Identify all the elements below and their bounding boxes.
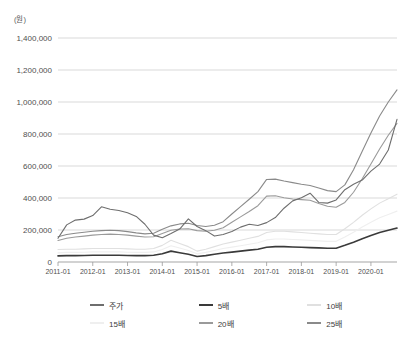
legend-item-label: 10배 — [326, 300, 342, 311]
legend-item-label: 20배 — [218, 318, 234, 329]
legend-swatch-icon — [307, 322, 321, 325]
x-axis-tick-label: 2013-01 — [115, 268, 141, 275]
x-axis-tick-label: 2019-01 — [323, 268, 349, 275]
legend-item[interactable]: 15배 — [46, 318, 155, 329]
legend-row: 주가 5배 10배 — [46, 296, 372, 314]
y-axis-tick-label: 800,000 — [0, 130, 52, 139]
legend-item-label: 5배 — [218, 300, 229, 311]
x-axis-tick-label: 2011-01 — [45, 268, 70, 275]
legend-swatch-icon — [307, 304, 321, 307]
y-axis-tick-label: 400,000 — [0, 194, 52, 203]
x-axis-tick-label: 2018-01 — [289, 268, 315, 275]
legend-item[interactable]: 25배 — [263, 318, 372, 329]
legend-swatch-icon — [199, 322, 213, 325]
y-axis-tick-label: 1,000,000 — [0, 98, 52, 107]
y-axis-tick-label: 0 — [0, 258, 52, 267]
legend-item[interactable]: 10배 — [263, 300, 372, 311]
y-axis-tick-label: 1,400,000 — [0, 34, 52, 43]
chart-legend: 주가 5배 10배 15배 20배 25배 — [0, 296, 405, 332]
y-axis-tick-label: 600,000 — [0, 162, 52, 171]
legend-row: 15배 20배 25배 — [46, 314, 372, 332]
legend-item[interactable]: 주가 — [46, 300, 155, 311]
chart-container: (원) 0200,000400,000600,000800,0001,000,0… — [0, 0, 405, 349]
legend-item-label: 주가 — [109, 300, 123, 311]
x-axis-tick-label: 2016-01 — [219, 268, 245, 275]
x-axis-tick-label: 2020-01 — [358, 268, 384, 275]
x-axis-tick-label: 2015-01 — [184, 268, 210, 275]
x-axis-tick-label: 2017-01 — [254, 268, 280, 275]
y-axis-tick-label: 200,000 — [0, 226, 52, 235]
x-axis-tick-label: 2012-01 — [80, 268, 106, 275]
x-axis-tick-label: 2014-01 — [149, 268, 175, 275]
y-axis-tick-label: 1,200,000 — [0, 66, 52, 75]
legend-swatch-icon — [90, 304, 104, 307]
legend-swatch-icon — [90, 322, 104, 325]
legend-item-label: 25배 — [326, 318, 342, 329]
legend-item-label: 15배 — [109, 318, 125, 329]
legend-item[interactable]: 5배 — [155, 300, 264, 311]
legend-swatch-icon — [199, 304, 213, 307]
legend-item[interactable]: 20배 — [155, 318, 264, 329]
